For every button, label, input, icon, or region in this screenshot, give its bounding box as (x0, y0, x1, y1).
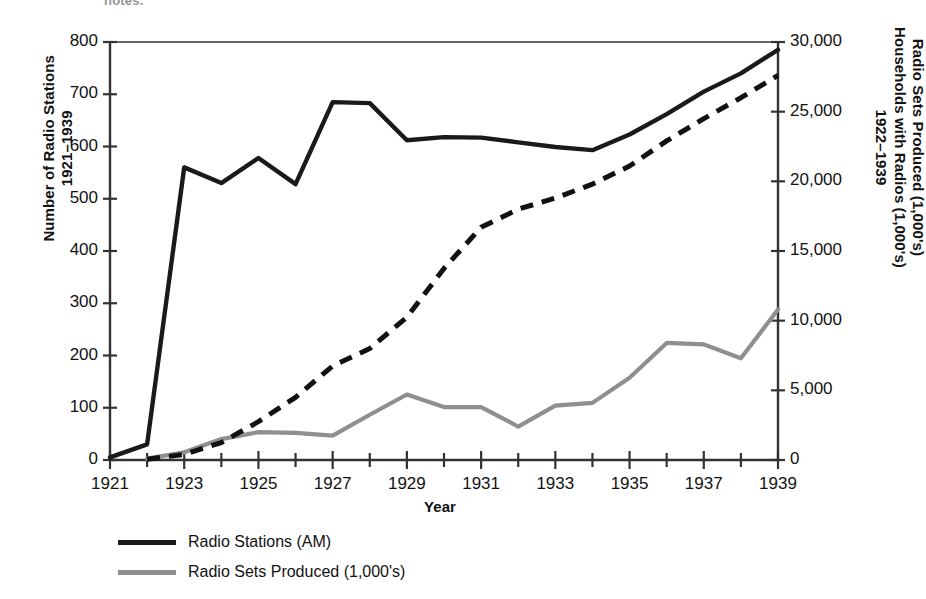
x-tick-1937: 1937 (669, 474, 739, 494)
series-line-radio-stations (110, 50, 778, 458)
y-right-tick-5000: 5,000 (790, 379, 870, 399)
legend-item-radio-sets-produced: Radio Sets Produced (1,000's) (118, 557, 405, 587)
y-left-tick-200: 200 (28, 345, 98, 365)
y-axis-left-title-line2: 1921–1939 (58, 0, 76, 298)
x-tick-1939: 1939 (743, 474, 813, 494)
y-axis-right-title-line2: Households with Radios (1,000's) (891, 0, 909, 307)
y-axis-right-title-line1: Radio Sets Produced (1,000's) (909, 0, 926, 307)
series-line-radio-sets-produced (147, 310, 778, 459)
x-tick-1925: 1925 (223, 474, 293, 494)
y-left-tick-0: 0 (28, 449, 98, 469)
y-right-tick-15000: 15,000 (790, 240, 870, 260)
x-tick-1933: 1933 (520, 474, 590, 494)
x-tick-1927: 1927 (298, 474, 368, 494)
y-axis-left-title-line1: Number of Radio Stations (40, 0, 58, 298)
chart-figure: notes. 010020030040050060070080005,00010… (0, 0, 926, 599)
x-tick-1935: 1935 (595, 474, 665, 494)
x-tick-1923: 1923 (149, 474, 219, 494)
y-axis-left-title: Number of Radio Stations 1921–1939 (40, 0, 77, 298)
legend-swatch-solid-black-icon (118, 540, 176, 545)
x-tick-1921: 1921 (75, 474, 145, 494)
y-left-tick-100: 100 (28, 397, 98, 417)
legend-label-radio-stations: Radio Stations (AM) (188, 533, 331, 551)
y-axis-right-title: Radio Sets Produced (1,000's) Households… (873, 0, 926, 307)
y-right-tick-0: 0 (790, 449, 870, 469)
y-right-tick-10000: 10,000 (790, 310, 870, 330)
x-tick-1929: 1929 (372, 474, 442, 494)
y-right-tick-25000: 25,000 (790, 101, 870, 121)
y-axis-right-title-line3: 1922–1939 (873, 0, 891, 307)
x-tick-1931: 1931 (446, 474, 516, 494)
legend-item-radio-stations: Radio Stations (AM) (118, 527, 405, 557)
y-right-tick-30000: 30,000 (790, 31, 870, 51)
y-right-tick-20000: 20,000 (790, 170, 870, 190)
axis-lines (110, 42, 778, 460)
chart-legend: Radio Stations (AM) Radio Sets Produced … (118, 527, 405, 587)
series-line-households-with-radios (147, 75, 778, 459)
legend-swatch-gray-icon (118, 570, 176, 575)
legend-label-radio-sets-produced: Radio Sets Produced (1,000's) (188, 563, 405, 581)
x-axis-title: Year (0, 498, 880, 515)
